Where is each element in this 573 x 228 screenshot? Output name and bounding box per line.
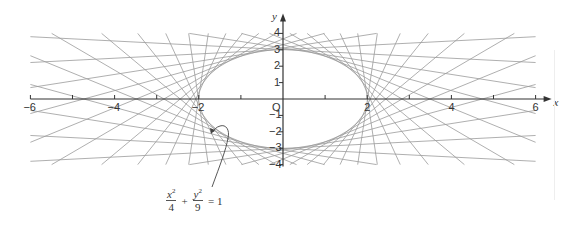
x-fraction: x2 4 <box>166 188 176 213</box>
y-axis-label: y <box>272 11 277 22</box>
y-tick-label: 2 <box>274 60 280 71</box>
x-tick-label: −2 <box>192 102 205 113</box>
y-tick-label: −3 <box>269 142 282 153</box>
y-tick-label: 3 <box>274 44 280 55</box>
page-edge-divider <box>554 50 555 200</box>
y-tick-label: −4 <box>269 159 282 170</box>
ellipse-equation: x2 4 + y2 9 = 1 <box>166 188 222 213</box>
y-tick-label: 4 <box>274 27 280 38</box>
y-tick-label: 1 <box>274 77 280 88</box>
x-tick-label: 2 <box>364 102 370 113</box>
tangent-line <box>269 56 535 165</box>
axes <box>30 13 551 166</box>
origin-label: O <box>272 102 281 113</box>
x-tick-label: 6 <box>533 102 539 113</box>
ellipse-tangent-plot <box>0 0 573 228</box>
x-tick-label: −6 <box>23 102 36 113</box>
y-tick-label: −2 <box>269 126 282 137</box>
tangent-line <box>269 33 535 142</box>
x-tick-label: 4 <box>448 102 454 113</box>
x-tick-label: −4 <box>108 102 121 113</box>
y-fraction: y2 9 <box>193 188 203 213</box>
plus-sign: + <box>181 195 187 207</box>
tangent-line <box>30 56 296 165</box>
x-axis-arrow-icon <box>544 96 552 102</box>
tangent-line <box>30 33 296 142</box>
equals-one: = 1 <box>208 195 222 207</box>
y-axis-arrow-icon <box>280 13 286 21</box>
